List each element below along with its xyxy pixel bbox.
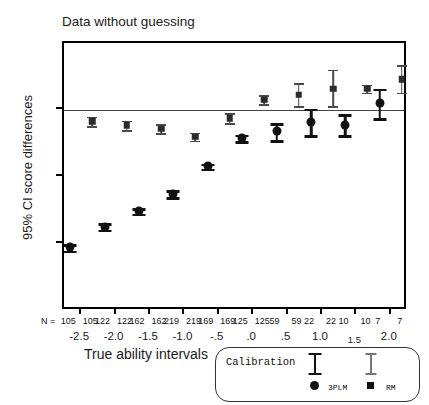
marker-3plm [100,222,109,231]
zero-reference-line [64,110,404,111]
x-axis-tick-label: 1.5 [348,334,361,345]
error-bar-cap [294,83,304,85]
n-value-3plm: 122 [95,316,110,326]
n-value-3plm: 105 [61,316,76,326]
x-axis-tick-label: 1.0 [312,330,328,342]
n-row-prefix: N = [41,316,55,326]
x-axis-tick-label: -2.0 [104,330,124,342]
x-axis-tick-mark [320,309,322,314]
x-axis-tick-mark [286,309,288,314]
n-value-rm: 10 [360,316,370,326]
x-axis-tick-mark [354,309,356,314]
legend-errorbar-rm [364,352,378,376]
marker-3plm [272,127,281,136]
error-bar-cap [305,135,318,138]
n-value-rm: 59 [292,316,302,326]
marker-3plm [307,118,316,127]
legend-box: Calibration 3PLM RM [215,347,420,402]
x-axis-tick-mark [182,309,184,314]
x-axis-tick-label: .0 [246,330,256,342]
n-value-3plm: 219 [164,316,179,326]
n-value-3plm: 162 [129,316,144,326]
n-value-3plm: 169 [198,316,213,326]
marker-rm [330,85,337,92]
chart-title: Data without guessing [62,14,195,29]
marker-rm [192,134,199,141]
chart-figure: Data without guessing 95% CI score diffe… [0,0,429,405]
x-axis-tick-label: -1.0 [172,330,192,342]
n-value-3plm: 22 [304,316,314,326]
x-axis-tick-mark [114,309,116,314]
error-bar-cap [339,135,352,138]
error-bar-cap [397,65,407,67]
error-bar-cap [259,104,269,106]
n-value-3plm: 10 [338,316,348,326]
marker-3plm [341,120,350,129]
marker-3plm [66,243,75,252]
marker-rm [89,118,96,125]
plot-area [62,41,406,309]
n-value-rm: 125 [255,316,270,326]
legend-marker-rm [367,382,374,389]
x-axis-tick-label: -1.5 [138,330,158,342]
marker-3plm [238,134,247,143]
error-bar-cap [87,126,97,128]
error-bar-cap [122,130,132,132]
error-bar-cap [225,123,235,125]
marker-rm [261,97,268,104]
x-axis-tick-mark [217,309,219,314]
legend-marker-3plm [310,381,319,390]
x-axis-tick-label: -.5 [210,330,223,342]
legend-errorbar-3plm [308,352,322,376]
marker-rm [295,91,302,98]
error-bar-cap [397,93,407,95]
x-axis-tick-mark [79,309,81,314]
marker-rm [227,115,234,122]
n-value-rm: 7 [397,316,402,326]
error-bar-cap [328,106,338,108]
n-value-rm: 22 [326,316,336,326]
x-axis-tick-mark [251,309,253,314]
error-bar-cap [362,93,372,95]
error-bar-cap [339,114,352,117]
x-axis-tick-label: -2.5 [69,330,89,342]
x-axis-tick-mark [389,309,391,314]
n-value-3plm: 59 [270,316,280,326]
x-axis-tick-label: .5 [281,330,291,342]
marker-3plm [203,162,212,171]
marker-3plm [135,207,144,216]
legend-title: Calibration [226,356,295,368]
x-axis-tick-mark [148,309,150,314]
error-bar-cap [373,89,386,92]
marker-rm [123,122,130,129]
x-axis-tick-label: 2.0 [381,330,397,342]
x-axis-label: True ability intervals [56,346,236,362]
marker-3plm [169,189,178,198]
error-bar-cap [305,109,318,112]
y-axis-label: 95% CI score differences [20,43,35,293]
n-value-3plm: 7 [375,316,380,326]
error-bar-cap [328,70,338,72]
error-bar-cap [270,140,283,143]
legend-label-rm: RM [386,383,396,392]
marker-rm [399,76,406,83]
error-bar-cap [294,106,304,108]
marker-rm [364,85,371,92]
legend-label-3plm: 3PLM [328,383,347,392]
error-bar-cap [190,141,200,143]
marker-3plm [375,99,384,108]
marker-rm [158,126,165,133]
error-bar-cap [270,123,283,126]
error-bar-cap [373,118,386,121]
error-bar-cap [156,133,166,135]
n-value-3plm: 125 [233,316,248,326]
